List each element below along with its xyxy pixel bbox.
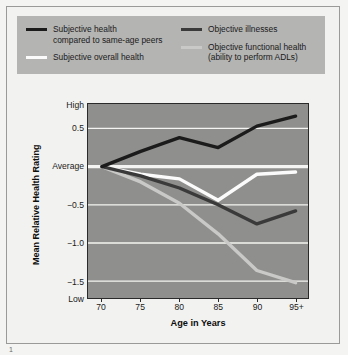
x-axis-tick-label: 90 xyxy=(253,302,263,312)
y-axis-tick-label: −0.5 xyxy=(67,200,84,210)
legend-column-right: Objective illnesses Objective functional… xyxy=(181,24,325,70)
legend-item-objective-illnesses: Objective illnesses xyxy=(181,24,325,35)
corner-mark: 1 xyxy=(9,346,13,353)
legend-label-line-1: Subjective health xyxy=(53,24,181,35)
chart-legend: Subjective health compared to same-age p… xyxy=(17,16,325,74)
y-axis-tick-label: Average xyxy=(52,161,84,171)
y-axis-tick-label: −1.0 xyxy=(67,238,84,248)
x-axis-tick-label: 95+ xyxy=(289,302,304,312)
legend-label-line-1: Subjective overall health xyxy=(53,52,181,63)
legend-item-subjective-overall-health: Subjective overall health xyxy=(26,52,181,63)
legend-column-left: Subjective health compared to same-age p… xyxy=(26,24,181,70)
dark-gray-line-swatch-icon xyxy=(181,28,202,31)
legend-item-subjective-health-peers: Subjective health compared to same-age p… xyxy=(26,24,181,45)
legend-label-line-2: compared to same-age peers xyxy=(53,35,181,46)
plot-wrapper xyxy=(87,103,309,299)
x-axis-tick-label: 75 xyxy=(135,302,145,312)
y-axis-tick-label: 0.5 xyxy=(72,123,84,133)
y-axis-tick-label: −1.5 xyxy=(67,277,84,287)
legend-item-objective-functional-health: Objective functional health (ability to … xyxy=(181,42,325,63)
figure-container: Subjective health compared to same-age p… xyxy=(0,0,348,355)
plot-svg xyxy=(88,104,308,298)
y-axis-tick-labels: High0.5Average−0.5−1.0−1.5Low xyxy=(24,95,84,310)
y-axis-tick-label: Low xyxy=(68,294,84,304)
legend-label-line-2: (ability to perform ADLs) xyxy=(208,52,325,63)
x-axis-tick-label: 80 xyxy=(174,302,184,312)
series-line xyxy=(102,116,296,166)
x-axis-tick-label: 85 xyxy=(214,302,224,312)
x-axis-title: Age in Years xyxy=(87,318,309,328)
white-line-swatch-icon xyxy=(26,56,47,59)
light-gray-line-swatch-icon xyxy=(181,46,202,49)
x-axis-tick-label: 70 xyxy=(96,302,106,312)
legend-label-line-1: Objective illnesses xyxy=(208,24,325,35)
plot-area xyxy=(87,103,309,299)
legend-label-line-1: Objective functional health xyxy=(208,42,325,53)
x-axis-tick-labels: 707580859095+ xyxy=(87,302,309,316)
black-line-swatch-icon xyxy=(26,28,47,31)
series-line xyxy=(102,167,296,283)
y-axis-tick-label: High xyxy=(66,100,84,110)
